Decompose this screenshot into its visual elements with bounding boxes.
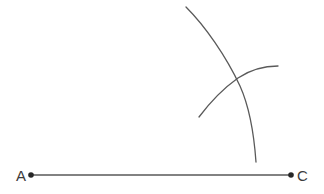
point-dot-a [28, 172, 34, 178]
point-label-c: C [297, 167, 308, 184]
construction-canvas: A C [0, 0, 324, 194]
geometry-figure: A C [0, 0, 324, 194]
figure-background [0, 0, 324, 194]
point-label-a: A [16, 167, 26, 184]
point-dot-c [288, 172, 294, 178]
